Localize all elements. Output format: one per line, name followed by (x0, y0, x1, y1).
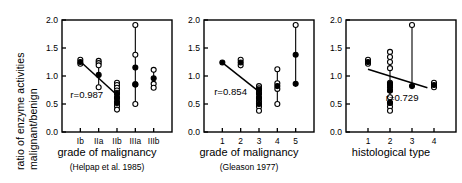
data-point-open (133, 52, 138, 57)
data-point-filled (410, 84, 415, 89)
x-tick-label: 1 (220, 136, 225, 146)
y-tick-label: 1.5 (188, 43, 200, 53)
data-point-open (388, 54, 393, 59)
x-tick-label: 3 (410, 136, 415, 146)
correlation-annotation: r=0.854 (214, 86, 247, 97)
x-axis-title: grade of malignancy (36, 146, 178, 158)
x-tick-label: 4 (432, 136, 437, 146)
data-point-open (388, 66, 393, 71)
data-point-open (151, 85, 156, 90)
x-tick-label: 5 (293, 136, 298, 146)
data-point-open (133, 23, 138, 28)
data-point-filled (151, 76, 156, 81)
data-point-open (133, 102, 138, 107)
data-point-open (410, 23, 415, 28)
data-point-filled (257, 96, 262, 101)
data-point-open (388, 60, 393, 65)
y-tick-label: 0.5 (188, 99, 200, 109)
figure-panel-group: ratio of enzyme activities malignant/ben… (0, 0, 462, 183)
y-tick-label: 0.5 (330, 99, 342, 109)
data-point-open (275, 67, 280, 72)
x-tick-label: Ib (77, 136, 84, 146)
data-point-open (388, 108, 393, 113)
chart-panel-helpap: 0.00.51.01.52.0IbIIaIIbIIIaIIIbr=0.987gr… (36, 0, 178, 183)
y-axis-label: ratio of enzyme activities malignant/ben… (0, 0, 40, 183)
y-tick-label: 2.0 (188, 15, 200, 25)
y-tick-label: 0.0 (46, 127, 58, 137)
data-point-open (96, 63, 101, 68)
data-point-filled (257, 102, 262, 107)
data-point-open (388, 49, 393, 54)
data-point-filled (275, 84, 280, 89)
y-tick-label: 0.0 (330, 127, 342, 137)
data-point-open (257, 108, 262, 113)
data-point-open (275, 102, 280, 107)
x-tick-label: 1 (366, 136, 371, 146)
correlation-annotation: r=0.987 (70, 89, 103, 100)
data-point-filled (293, 81, 298, 86)
data-point-filled (432, 82, 437, 87)
plot-frame (204, 20, 314, 132)
x-axis-title: histological type (320, 146, 462, 158)
x-tick-label: 4 (275, 136, 280, 146)
y-tick-label: 1.5 (330, 43, 342, 53)
panels-container: 0.00.51.01.52.0IbIIaIIbIIIaIIIbr=0.987gr… (36, 0, 462, 183)
data-point-filled (133, 65, 138, 70)
x-tick-label: 2 (388, 136, 393, 146)
y-axis-label-line1: ratio of enzyme activities (14, 52, 26, 170)
data-point-filled (293, 52, 298, 57)
data-point-filled (115, 100, 120, 105)
y-tick-label: 2.0 (46, 15, 58, 25)
y-tick-label: 1.0 (46, 71, 58, 81)
x-tick-label: IIIa (130, 136, 142, 146)
data-point-filled (238, 60, 243, 65)
y-tick-label: 2.0 (330, 15, 342, 25)
data-point-filled (133, 82, 138, 87)
chart-panel-gleason: 0.00.51.01.52.012345r=0.854grade of mali… (178, 0, 320, 183)
y-tick-label: 0.0 (188, 127, 200, 137)
x-axis-title: grade of malignancy (178, 146, 320, 158)
x-axis-subcaption: (Gleason 1977) (178, 162, 320, 172)
plot-frame (346, 20, 456, 132)
data-point-open (151, 67, 156, 72)
x-tick-label: 3 (257, 136, 262, 146)
data-point-filled (366, 60, 371, 65)
y-tick-label: 1.5 (46, 43, 58, 53)
y-tick-label: 0.5 (46, 99, 58, 109)
x-axis-subcaption: (Helpap et al. 1985) (36, 162, 178, 172)
chart-panel-histological-type: 0.00.51.01.52.01234r=0.729histological t… (320, 0, 462, 183)
data-point-open (115, 107, 120, 112)
x-tick-label: IIa (94, 136, 104, 146)
y-tick-label: 1.0 (188, 71, 200, 81)
correlation-annotation: r=0.729 (386, 92, 419, 103)
x-tick-label: IIb (112, 136, 122, 146)
x-tick-label: IIIb (148, 136, 160, 146)
regression-line (368, 69, 427, 87)
y-tick-label: 1.0 (330, 71, 342, 81)
x-tick-label: 2 (238, 136, 243, 146)
data-point-open (293, 23, 298, 28)
